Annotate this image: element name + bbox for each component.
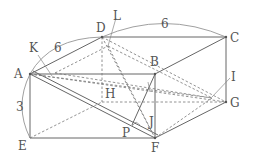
leader-lines xyxy=(38,18,230,126)
label-e: E xyxy=(18,139,27,153)
label-i: I xyxy=(231,70,236,84)
dimension-ae: 3 xyxy=(16,100,24,114)
label-a: A xyxy=(13,67,23,81)
label-f: F xyxy=(151,141,159,155)
dimension-dc: 6 xyxy=(161,17,169,31)
label-j: J xyxy=(147,115,154,129)
label-d: D xyxy=(96,21,106,35)
label-p: P xyxy=(122,126,130,140)
label-k: K xyxy=(29,41,39,55)
prism-diagram: A B C D E F G H I J K L P 6 6 3 xyxy=(0,0,254,159)
label-g: G xyxy=(230,96,240,110)
label-b: B xyxy=(150,55,159,69)
label-h: H xyxy=(105,87,115,101)
dimension-ad: 6 xyxy=(54,41,62,55)
label-l: L xyxy=(113,9,121,23)
label-c: C xyxy=(230,31,239,45)
